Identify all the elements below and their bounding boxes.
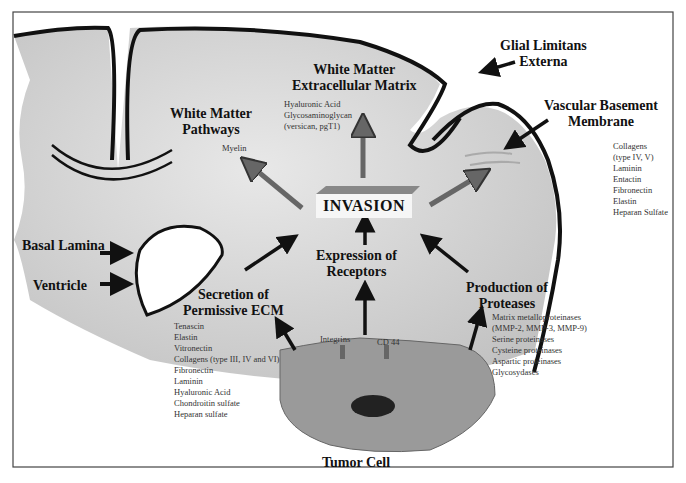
nucleus <box>351 395 395 417</box>
invasion-box: INVASION <box>316 194 412 218</box>
label-wm-ecm: White Matter Extracellular Matrix <box>292 62 417 94</box>
label-wm-pathways: White Matter Pathways <box>170 106 252 138</box>
label-integrins: Integrins <box>320 334 350 345</box>
label-vascular: Vascular Basement Membrane <box>544 98 658 130</box>
list-proteases: Matrix metalloproteinases(MMP-2, MMP-3, … <box>492 312 587 378</box>
label-secretion: Secretion of Permissive ECM <box>183 287 284 319</box>
list-vascular: Collagens(type IV, V)LamininEntactinFibr… <box>613 141 668 218</box>
label-glial-limitans: Glial Limitans Externa <box>500 38 587 70</box>
label-proteases: Production of Proteases <box>466 280 548 312</box>
label-ventricle: Ventricle <box>33 278 87 294</box>
list-secretion: TenascinElastinVitronectinCollagens (typ… <box>174 321 279 420</box>
list-wm-pathways: Myelin <box>222 143 247 154</box>
label-tumor-cell: Tumor Cell <box>322 455 390 471</box>
list-wm-ecm: Hyaluronic AcidGlycosaminoglycan(versica… <box>284 99 352 132</box>
label-basal-lamina: Basal Lamina <box>22 238 105 254</box>
label-cd44: CD 44 <box>377 337 399 348</box>
integrin-receptor <box>340 345 345 359</box>
label-expression: Expression of Receptors <box>316 248 397 280</box>
